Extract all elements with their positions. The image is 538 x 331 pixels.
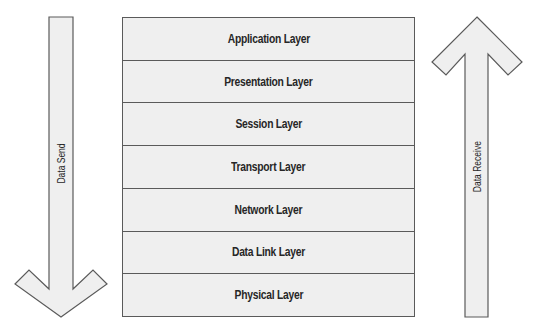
layer-label: Transport Layer bbox=[231, 160, 305, 174]
layer-label: Presentation Layer bbox=[224, 75, 312, 89]
layer-network: Network Layer bbox=[123, 189, 414, 232]
layer-data-link: Data Link Layer bbox=[123, 232, 414, 275]
osi-diagram: Data Send Data Receive Application Layer… bbox=[0, 0, 538, 331]
layer-label: Data Link Layer bbox=[232, 245, 305, 259]
layer-label: Application Layer bbox=[227, 32, 309, 46]
data-receive-label: Data Receive bbox=[472, 143, 483, 192]
layer-label: Physical Layer bbox=[234, 288, 303, 302]
layer-physical: Physical Layer bbox=[123, 274, 414, 316]
layer-application: Application Layer bbox=[123, 18, 414, 61]
layer-label: Session Layer bbox=[235, 117, 302, 131]
layer-label: Network Layer bbox=[235, 203, 303, 217]
layer-transport: Transport Layer bbox=[123, 146, 414, 189]
data-send-label: Data Send bbox=[56, 143, 67, 184]
layer-session: Session Layer bbox=[123, 103, 414, 146]
osi-layer-stack: Application Layer Presentation Layer Ses… bbox=[122, 17, 415, 317]
layer-presentation: Presentation Layer bbox=[123, 61, 414, 104]
